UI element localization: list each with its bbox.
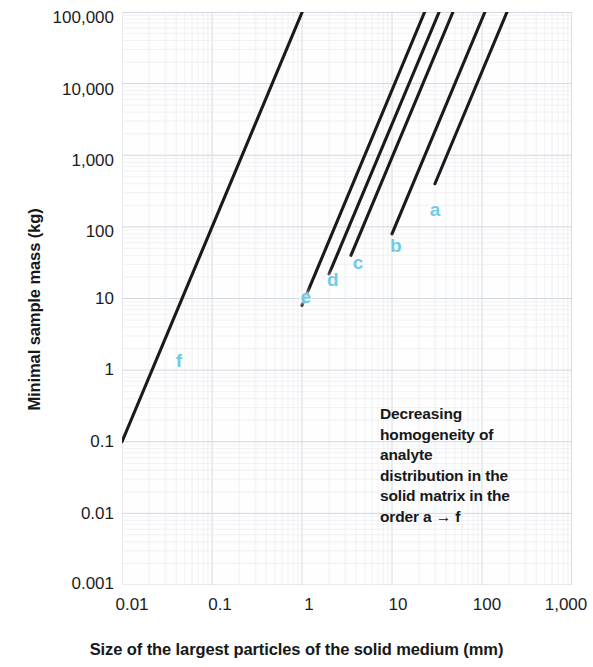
annotation-line: homogeneity of <box>380 425 580 446</box>
y-axis-title: Minimal sample mass (kg) <box>25 180 44 440</box>
annotation-text: Decreasing homogeneity of analyte distri… <box>380 404 580 527</box>
chart-figure: Minimal sample mass (kg) 100,000 10,000 … <box>0 0 593 667</box>
curve-label-f: f <box>176 350 182 369</box>
x-tick-label: 1,000 <box>506 596 593 613</box>
y-tick-label: 100,000 <box>0 9 114 26</box>
y-tick-label: 100 <box>0 223 114 240</box>
y-tick-label: 1,000 <box>0 152 114 169</box>
curve-label-e: e <box>300 286 311 305</box>
annotation-line: analyte <box>380 445 580 466</box>
annotation-line: order a → f <box>380 507 580 528</box>
curve-label-c: c <box>353 253 364 272</box>
y-tick-label: 1 <box>0 361 114 378</box>
annotation-line: solid matrix in the <box>380 486 580 507</box>
x-axis-title: Size of the largest particles of the sol… <box>0 640 593 659</box>
y-tick-label: 0.01 <box>0 505 114 522</box>
y-tick-label: 10,000 <box>0 81 114 98</box>
y-tick-label: 10 <box>0 290 114 307</box>
curve-label-d: d <box>327 269 339 288</box>
y-tick-label: 0.1 <box>0 433 114 450</box>
annotation-line: distribution in the <box>380 466 580 487</box>
y-tick-label: 0.001 <box>0 575 114 592</box>
curve-label-b: b <box>390 236 402 255</box>
curve-label-a: a <box>430 199 441 218</box>
annotation-line: Decreasing <box>380 404 580 425</box>
